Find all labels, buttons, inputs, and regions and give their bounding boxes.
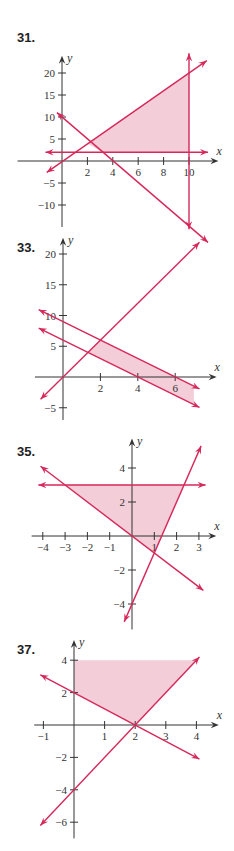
x-tick-label: 2 — [98, 382, 104, 394]
y-tick-label: 5 — [50, 133, 56, 145]
x-tick-label: 2 — [132, 730, 138, 742]
graph-31: xy2468102015105−5−10y = 2xy = -2.5x + 10… — [0, 20, 234, 220]
x-tick-label: −4 — [37, 541, 49, 553]
y-tick-label: −6 — [55, 816, 67, 828]
x-axis-label: x — [213, 519, 220, 533]
graph-33: xy2462015105−5y = 3xy = -1.5x + 9y = -1.… — [0, 230, 234, 420]
x-tick-label: 2 — [85, 166, 91, 178]
y-tick-label: −10 — [38, 199, 56, 211]
x-tick-label: 4 — [194, 730, 200, 742]
graph-panel-35: 35. xy−4−3−2−112342−2−4y = 3y = -xy = 3x… — [0, 440, 234, 630]
x-tick-label: −3 — [59, 541, 71, 553]
y-axis-label: y — [78, 635, 85, 649]
x-tick-label: 3 — [196, 541, 202, 553]
graph-panel-37: 37. xy−1123442−2−4−6y = -x + 2y = 2x - 4 — [0, 640, 234, 840]
y-axis-label: y — [67, 233, 74, 247]
y-axis-label: y — [66, 51, 73, 65]
x-tick-label: −1 — [104, 541, 116, 553]
y-tick-label: 5 — [51, 340, 57, 352]
graph-35: xy−4−3−2−112342−2−4y = 3y = -xy = 3x - 4 — [0, 440, 234, 630]
y-tick-label: 4 — [62, 654, 68, 666]
y-tick-label: 10 — [44, 111, 56, 123]
graph-panel-31: 31. xy2468102015105−5−10y = 2xy = -2.5x … — [0, 20, 234, 220]
x-tick-label: 2 — [174, 541, 180, 553]
y-tick-label: 15 — [44, 89, 56, 101]
x-tick-label: 4 — [135, 382, 141, 394]
x-axis-label: x — [215, 144, 222, 158]
arrow-head-icon — [47, 165, 55, 172]
x-tick-label: 4 — [110, 166, 116, 178]
y-tick-label: −5 — [44, 402, 56, 414]
feasible-region — [87, 73, 189, 152]
x-tick-label: −2 — [82, 541, 94, 553]
graph-panel-33: 33. xy2462015105−5y = 3xy = -1.5x + 9y =… — [0, 230, 234, 420]
y-tick-label: −4 — [55, 784, 67, 796]
x-axis-label: x — [216, 708, 223, 722]
y-tick-label: 20 — [45, 248, 57, 260]
x-tick-label: −1 — [38, 730, 50, 742]
x-tick-label: 1 — [102, 730, 108, 742]
arrow-head-icon — [195, 583, 203, 590]
arrow-head-icon — [41, 466, 49, 473]
x-tick-label: 6 — [172, 382, 178, 394]
y-tick-label: −5 — [43, 177, 55, 189]
arrow-head-icon — [198, 61, 206, 68]
feasible-region — [88, 340, 194, 405]
y-tick-label: 15 — [45, 279, 57, 291]
y-tick-label: 2 — [120, 496, 126, 508]
y-tick-label: 20 — [44, 67, 56, 79]
y-tick-label: −2 — [113, 564, 125, 576]
x-tick-label: 6 — [135, 166, 141, 178]
y-tick-label: −2 — [55, 751, 67, 763]
y-axis-label: y — [136, 434, 143, 448]
graph-37: xy−1123442−2−4−6y = -x + 2y = 2x - 4 — [0, 640, 234, 840]
x-tick-label: 8 — [161, 166, 167, 178]
x-axis-label: x — [214, 360, 221, 374]
y-tick-label: −4 — [113, 598, 125, 610]
feasible-region — [74, 660, 196, 725]
y-tick-label: 4 — [120, 462, 126, 474]
